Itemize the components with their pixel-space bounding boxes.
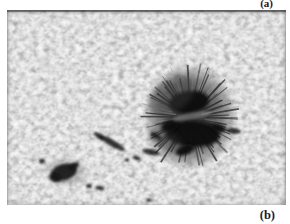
panel-b-label: (b) bbox=[260, 208, 275, 222]
dark-streak bbox=[39, 159, 45, 164]
sunspot-photograph bbox=[7, 10, 286, 205]
sunspot-photo-canvas bbox=[7, 10, 286, 205]
panel-a-label: (a) bbox=[260, 0, 273, 9]
dark-streak bbox=[146, 199, 152, 202]
photo-top-edge-strip bbox=[7, 10, 286, 12]
dark-streak bbox=[125, 158, 130, 162]
figure-page: (a) bbox=[0, 0, 290, 224]
small-pore-group bbox=[47, 159, 85, 185]
dark-streak bbox=[86, 184, 92, 188]
